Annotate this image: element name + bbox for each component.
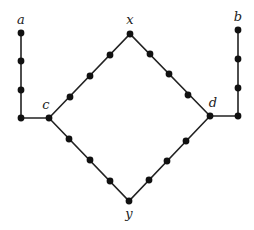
node-a bbox=[18, 30, 25, 37]
node-b3 bbox=[235, 113, 242, 120]
node-yd1 bbox=[146, 177, 153, 184]
node-a3 bbox=[18, 115, 25, 122]
graph-diagram: abcdxy bbox=[0, 0, 254, 230]
node-xd2 bbox=[166, 71, 173, 78]
node-cx3 bbox=[107, 52, 114, 59]
label-b: b bbox=[234, 9, 242, 24]
node-xd1 bbox=[147, 51, 154, 58]
node-x bbox=[127, 31, 134, 38]
edge-c-y-d bbox=[49, 116, 210, 201]
node-b bbox=[235, 27, 242, 34]
node-b1 bbox=[235, 56, 242, 63]
nodes bbox=[18, 27, 242, 205]
node-c bbox=[46, 115, 53, 122]
label-a: a bbox=[17, 12, 25, 27]
node-y bbox=[126, 198, 133, 205]
edges bbox=[21, 30, 238, 201]
node-d bbox=[207, 113, 214, 120]
node-xd3 bbox=[185, 92, 192, 99]
node-cy2 bbox=[87, 157, 94, 164]
node-cx1 bbox=[67, 94, 74, 101]
node-cx2 bbox=[87, 73, 94, 80]
node-yd2 bbox=[164, 158, 171, 165]
label-y: y bbox=[124, 206, 133, 221]
label-x: x bbox=[126, 12, 134, 27]
edge-c-x-d bbox=[49, 34, 210, 118]
node-a1 bbox=[18, 58, 25, 65]
node-yd3 bbox=[183, 138, 190, 145]
label-d: d bbox=[209, 95, 217, 110]
node-cy3 bbox=[107, 178, 114, 185]
node-cy1 bbox=[66, 136, 73, 143]
label-c: c bbox=[42, 97, 50, 112]
node-a2 bbox=[18, 87, 25, 94]
node-b2 bbox=[235, 85, 242, 92]
